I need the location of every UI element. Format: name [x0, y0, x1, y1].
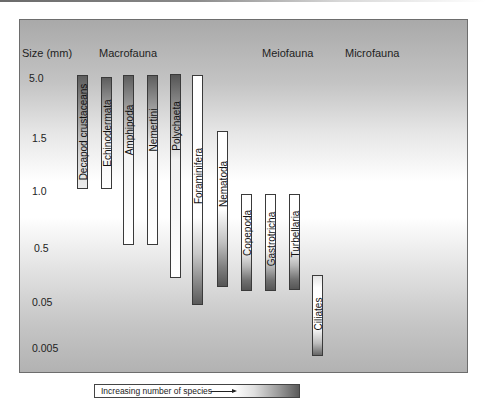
bar-ciliates: Ciliates	[312, 275, 323, 356]
bar-label: Turbellaria	[289, 211, 300, 258]
group-label-microfauna: Microfauna	[345, 47, 399, 59]
bar-polychaeta: Polychaeta	[170, 74, 181, 278]
bar-amphipoda: Amphipoda	[123, 75, 134, 245]
arrow-right-icon	[211, 391, 235, 392]
bar-label: Polychaeta	[170, 101, 181, 150]
y-tick: 0.5	[34, 242, 49, 254]
bar-foraminifera: Foraminifera	[192, 75, 203, 305]
bar-echinodermata: Echinodermata	[101, 77, 112, 189]
top-rule	[0, 0, 486, 2]
group-label-macrofauna: Macrofauna	[99, 47, 157, 59]
y-tick: 0.005	[32, 342, 58, 354]
bar-turbellaria: Turbellaria	[289, 194, 300, 290]
legend-species-gradient: Increasing number of species	[94, 384, 300, 398]
bar-label: Nemertini	[147, 108, 158, 151]
bar-label: Nematoda	[217, 161, 228, 207]
bar-copepoda: Copepoda	[241, 194, 252, 291]
bar-label: Echinodermata	[101, 99, 112, 166]
y-tick: 5.0	[29, 72, 44, 84]
bar-gastrotricha: Gastrotricha	[265, 194, 276, 291]
bar-nematoda: Nematoda	[217, 131, 228, 287]
bar-label: Ciliates	[312, 298, 323, 331]
y-axis-title: Size (mm)	[22, 47, 72, 59]
bar-label: Foraminifera	[192, 148, 203, 204]
group-label-meiofauna: Meiofauna	[262, 47, 313, 59]
bar-nemertini: Nemertini	[147, 75, 158, 245]
bar-decapod-crustaceans: Decapod crustaceans	[77, 75, 88, 189]
bar-label: Amphipoda	[123, 104, 134, 155]
bar-label: Gastrotricha	[265, 211, 276, 265]
bar-label: Copepoda	[241, 210, 252, 256]
y-tick: 0.05	[32, 296, 52, 308]
bar-label: Decapod crustaceans	[77, 84, 88, 181]
legend-text: Increasing number of species	[101, 386, 212, 396]
y-tick: 1.5	[32, 132, 47, 144]
y-tick: 1.0	[32, 185, 47, 197]
